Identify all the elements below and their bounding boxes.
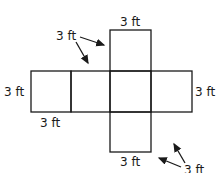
label-bottom: 3 ft xyxy=(120,155,140,169)
arrow-icon xyxy=(159,158,181,167)
label-top: 3 ft xyxy=(120,15,140,29)
arrow-icon xyxy=(174,144,185,163)
square-right xyxy=(151,71,192,112)
arrow-icon xyxy=(76,42,88,63)
label-top-left-pointer: 3 ft xyxy=(56,29,76,43)
cube-net-diagram: 3 ft 3 ft 3 ft 3 ft 3 ft 3 ft 3 ft xyxy=(0,0,223,173)
label-right: 3 ft xyxy=(195,85,215,99)
arrow-icon xyxy=(80,37,104,45)
square-center xyxy=(110,71,151,112)
square-top xyxy=(110,30,151,71)
square-bottom xyxy=(110,112,151,152)
square-left-1 xyxy=(31,71,71,112)
square-left-2 xyxy=(71,71,110,112)
label-bottom-right-pointer: 3 ft xyxy=(184,163,204,173)
label-below-left: 3 ft xyxy=(40,116,60,130)
label-left: 3 ft xyxy=(4,85,24,99)
